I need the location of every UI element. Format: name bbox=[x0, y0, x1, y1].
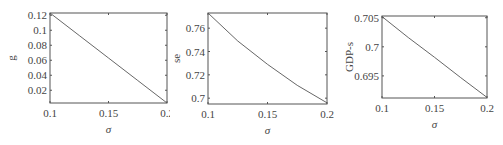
y-tick-label: 0.695 bbox=[354, 70, 379, 82]
x-tick-label: 0.15 bbox=[99, 107, 119, 119]
plot-frame bbox=[208, 13, 327, 104]
y-tick-label: 0.7 bbox=[365, 41, 379, 53]
plot-gdp-s: 0.10.150.20.6950.70.705σGDP-s bbox=[333, 0, 503, 145]
x-tick-label: 0.1 bbox=[43, 107, 57, 119]
y-axis-label: se bbox=[170, 54, 182, 63]
x-axis-label: σ bbox=[432, 118, 438, 130]
y-tick-label: 0.1 bbox=[33, 24, 47, 36]
plot-se: 0.10.150.20.70.720.740.76σse bbox=[165, 0, 335, 145]
x-tick-label: 0.1 bbox=[201, 108, 215, 120]
x-tick-label: 0.15 bbox=[258, 108, 278, 120]
y-tick-label: 0.08 bbox=[28, 39, 48, 51]
y-tick-label: 0.705 bbox=[354, 12, 379, 24]
x-axis-label: σ bbox=[106, 123, 112, 135]
x-axis-label: σ bbox=[265, 124, 271, 136]
y-tick-label: 0.74 bbox=[186, 46, 206, 58]
y-tick-label: 0.04 bbox=[28, 69, 48, 81]
series-line bbox=[50, 13, 167, 103]
y-axis-label: GDP-s bbox=[343, 42, 355, 72]
y-tick-label: 0.06 bbox=[28, 54, 48, 66]
series-line bbox=[208, 13, 327, 103]
x-tick-label: 0.2 bbox=[480, 102, 494, 114]
x-tick-label: 0.15 bbox=[425, 102, 445, 114]
series-line bbox=[382, 17, 487, 98]
chart-panel-gdp-s: 0.10.150.20.6950.70.705σGDP-s bbox=[333, 0, 503, 145]
plot-g: 0.10.150.20.020.040.060.080.10.12σg bbox=[0, 0, 170, 145]
chart-panel-g: 0.10.150.20.020.040.060.080.10.12σg bbox=[0, 0, 170, 145]
chart-panel-se: 0.10.150.20.70.720.740.76σse bbox=[165, 0, 335, 145]
y-tick-label: 0.12 bbox=[28, 9, 47, 21]
y-tick-label: 0.02 bbox=[28, 84, 47, 96]
y-tick-label: 0.76 bbox=[186, 22, 206, 34]
y-axis-label: g bbox=[5, 55, 17, 61]
y-tick-label: 0.72 bbox=[186, 69, 205, 81]
x-tick-label: 0.1 bbox=[375, 102, 389, 114]
y-tick-label: 0.7 bbox=[191, 92, 205, 104]
x-tick-label: 0.2 bbox=[320, 108, 334, 120]
